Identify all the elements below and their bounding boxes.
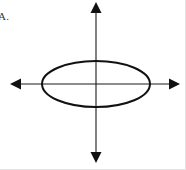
horizontal-axis-right-arrowhead	[169, 79, 180, 90]
figure-canvas: A.	[0, 0, 186, 170]
horizontal-axis-left-arrowhead	[10, 79, 21, 90]
coordinate-plane-diagram	[0, 0, 186, 170]
vertical-axis-bottom-arrowhead	[91, 152, 102, 163]
axes-group	[10, 2, 180, 163]
vertical-axis-top-arrowhead	[91, 2, 102, 13]
